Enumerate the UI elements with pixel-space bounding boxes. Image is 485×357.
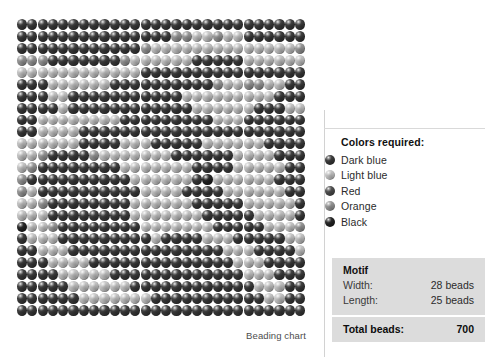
bead-dark-blue (213, 304, 223, 316)
bead-light-blue (171, 221, 181, 233)
bead-dark-blue (285, 67, 295, 79)
bead-light-blue (233, 78, 243, 90)
bead-dark-blue (295, 209, 305, 221)
bead-dark-blue (68, 55, 78, 67)
bead-light-blue (223, 90, 233, 102)
motif-length-label: Length: (343, 293, 378, 308)
bead-dark-blue (27, 126, 37, 138)
bead-dark-blue (89, 162, 99, 174)
bead-dark-blue (27, 43, 37, 55)
bead-dark-blue (48, 269, 58, 281)
bead-light-blue (233, 31, 243, 43)
bead-dark-blue (171, 245, 181, 257)
bead-light-blue (254, 43, 264, 55)
bead-dark-blue (89, 233, 99, 245)
bead-dark-blue (223, 292, 233, 304)
bead-dark-blue (223, 67, 233, 79)
bead-light-blue (213, 114, 223, 126)
bead-dark-blue (182, 292, 192, 304)
bead-dark-blue (58, 162, 68, 174)
bead-light-blue (223, 114, 233, 126)
bead-light-blue (120, 67, 130, 79)
bead-light-blue (79, 269, 89, 281)
bead-dark-blue (192, 55, 202, 67)
bead-light-blue (254, 174, 264, 186)
bead-dark-blue (27, 90, 37, 102)
bead-dark-blue (202, 292, 212, 304)
bead-dark-blue (38, 304, 48, 316)
bead-light-blue (79, 281, 89, 293)
bead-dark-blue (274, 304, 284, 316)
bead-light-blue (151, 150, 161, 162)
bead-dark-blue (274, 90, 284, 102)
bead-dark-blue (120, 31, 130, 43)
bead-dark-blue (285, 162, 295, 174)
bead-orange (213, 31, 223, 43)
bead-dark-blue (223, 126, 233, 138)
bead-dark-blue (171, 90, 181, 102)
bead-dark-blue (192, 78, 202, 90)
bead-light-blue (161, 55, 171, 67)
bead-light-blue (130, 197, 140, 209)
bead-light-blue (213, 174, 223, 186)
bead-light-blue (130, 162, 140, 174)
bead-dark-blue (202, 150, 212, 162)
bead-dark-blue (202, 162, 212, 174)
bead-light-blue (130, 55, 140, 67)
bead-dark-blue (254, 31, 264, 43)
bead-dark-blue (285, 150, 295, 162)
bead-light-blue (254, 150, 264, 162)
bead-dark-blue (99, 185, 109, 197)
bead-dark-blue (192, 304, 202, 316)
bead-light-blue (295, 102, 305, 114)
bead-light-blue (233, 185, 243, 197)
bead-dark-blue (295, 281, 305, 293)
bead-dark-blue (89, 257, 99, 269)
bead-dark-blue (48, 43, 58, 55)
bead-light-blue (130, 67, 140, 79)
bead-dark-blue (171, 304, 181, 316)
bead-light-blue (182, 197, 192, 209)
bead-dark-blue (151, 90, 161, 102)
bead-dark-blue (274, 150, 284, 162)
bead-dark-blue (264, 31, 274, 43)
bead-light-blue (285, 102, 295, 114)
bead-light-blue (202, 31, 212, 43)
bead-light-blue (58, 102, 68, 114)
bead-light-blue (151, 174, 161, 186)
bead-dark-blue (233, 221, 243, 233)
bead-dark-blue (161, 292, 171, 304)
bead-light-blue (161, 174, 171, 186)
bead-dark-blue (171, 78, 181, 90)
bead-light-blue (192, 43, 202, 55)
bead-light-blue (182, 209, 192, 221)
bead-light-blue (48, 126, 58, 138)
bead-dark-blue (192, 114, 202, 126)
bead-dark-blue (202, 245, 212, 257)
bead-light-blue (27, 197, 37, 209)
bead-light-blue (141, 185, 151, 197)
bead-dark-blue (254, 102, 264, 114)
bead-dark-blue (151, 114, 161, 126)
bead-dark-blue (202, 304, 212, 316)
bead-dark-blue (99, 304, 109, 316)
bead-light-blue (213, 102, 223, 114)
bead-dark-blue (192, 292, 202, 304)
bead-dark-blue (274, 257, 284, 269)
bead-light-blue (233, 114, 243, 126)
bead-dark-blue (120, 245, 130, 257)
bead-dark-blue (68, 150, 78, 162)
bead-dark-blue (274, 269, 284, 281)
bead-dark-blue (161, 126, 171, 138)
bead-light-blue (79, 114, 89, 126)
bead-dark-blue (171, 114, 181, 126)
bead-dark-blue (161, 31, 171, 43)
bead-light-blue (264, 292, 274, 304)
bead-dark-blue (79, 197, 89, 209)
bead-dark-blue (202, 197, 212, 209)
bead-dark-blue (48, 281, 58, 293)
bead-dark-blue (68, 19, 78, 31)
bead-light-blue (151, 43, 161, 55)
bead-dark-blue (38, 257, 48, 269)
bead-light-blue (274, 197, 284, 209)
